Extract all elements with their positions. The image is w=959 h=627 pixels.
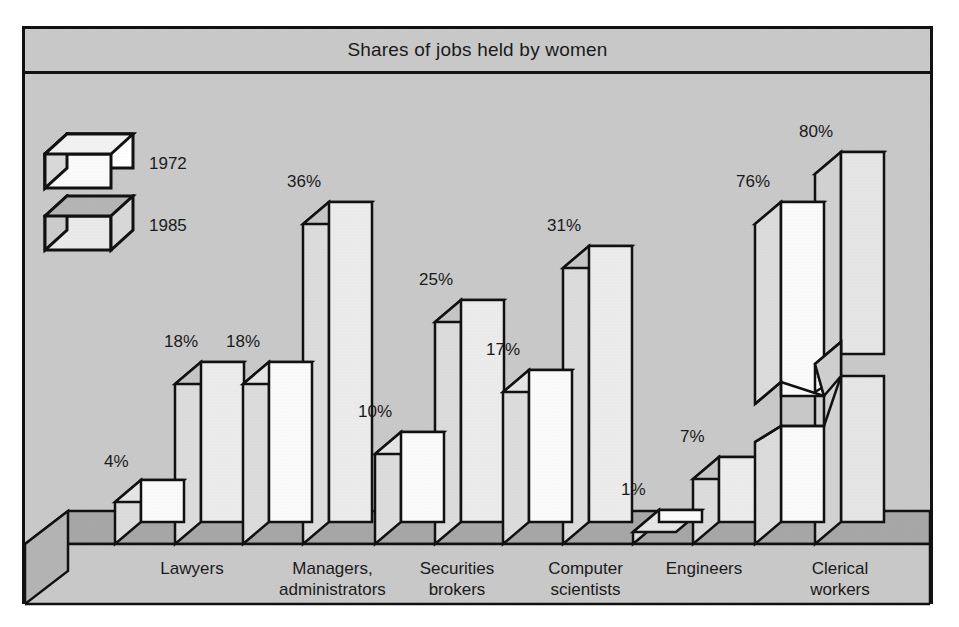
bar-engineers-1972 (633, 510, 702, 544)
bar-group-brokers (375, 300, 504, 544)
bar-clerical-1972 (755, 202, 824, 544)
title-band: Shares of jobs held by women (25, 29, 930, 74)
bar-clerical-1985 (815, 152, 884, 544)
value-label-managers-1985: 36% (287, 172, 321, 192)
value-label-clerical-1985: 80% (799, 122, 833, 142)
value-label-brokers-1972: 10% (358, 402, 392, 422)
value-label-engineers-1985: 7% (680, 427, 705, 447)
bar-group-managers (243, 202, 372, 544)
bar-group-lawyers (115, 362, 244, 544)
cat-label-clerical: Clerical workers (760, 558, 920, 600)
chart-frame: Shares of jobs held by women (22, 26, 933, 604)
cube-icon (43, 132, 139, 194)
bar-managers-1972 (243, 362, 312, 544)
value-label-brokers-1985: 25% (419, 270, 453, 290)
legend-label-1972: 1972 (149, 154, 187, 174)
bar-lawyers-1985 (175, 362, 244, 544)
bar-brokers-1972 (375, 432, 444, 544)
bar-managers-1985 (303, 202, 372, 544)
value-label-clerical-1972: 76% (736, 172, 770, 192)
bar-brokers-1985 (435, 300, 504, 544)
value-label-lawyers-1972: 4% (104, 452, 129, 472)
bar-group-computer (503, 246, 632, 544)
bar-computer-1972 (503, 370, 572, 544)
legend-item-1985: 1985 (43, 194, 253, 256)
cube-icon (43, 194, 139, 256)
bar-engineers-1985 (693, 457, 762, 544)
legend-item-1972: 1972 (43, 132, 253, 194)
value-label-lawyers-1985: 18% (164, 332, 198, 352)
legend-label-1985: 1985 (149, 216, 187, 236)
chart-screenshot: Shares of jobs held by women (0, 0, 959, 627)
cat-label-engineers: Engineers (629, 558, 779, 579)
value-label-computer-1985: 31% (547, 216, 581, 236)
chart-title: Shares of jobs held by women (347, 39, 607, 61)
plot-body: 4% 18% 18% 36% 10% 25% 17% 31% 1% 7% 76%… (25, 74, 930, 601)
bar-lawyers-1972 (115, 480, 184, 544)
chart-legend: 1972 1985 (43, 132, 253, 256)
value-label-engineers-1972: 1% (621, 480, 646, 500)
value-label-computer-1972: 17% (486, 340, 520, 360)
value-label-managers-1972: 18% (226, 332, 260, 352)
bar-group-clerical (755, 152, 884, 544)
bar-group-engineers (633, 457, 762, 544)
